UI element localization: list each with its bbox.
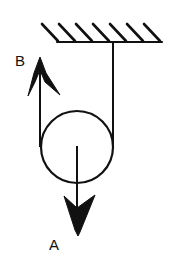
ceiling-support (42, 24, 162, 42)
pulley-diagram: B A (0, 0, 173, 261)
arrow-a-head-icon (64, 195, 95, 236)
ceiling-hatching (42, 24, 160, 41)
label-b: B (15, 52, 25, 69)
label-a: A (49, 236, 59, 253)
arrow-b-head-icon (28, 57, 60, 96)
